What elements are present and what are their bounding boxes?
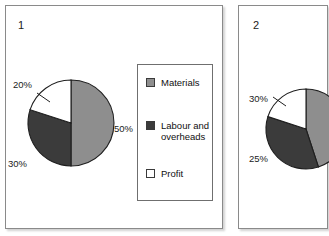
- legend-swatch-profit-icon: [146, 169, 155, 178]
- pie-1-label-profit: 20%: [13, 79, 32, 90]
- legend-label-materials: Materials: [161, 77, 200, 88]
- legend-item-materials: Materials: [146, 77, 200, 88]
- legend: Materials Labour and overheads Profit: [137, 64, 213, 201]
- legend-label-profit: Profit: [161, 168, 183, 179]
- panel-2: 2 30% 25%: [238, 5, 328, 229]
- legend-item-profit: Profit: [146, 168, 183, 179]
- panel-1: 1 20% 30% 50% Materials Labour and overh…: [5, 5, 223, 229]
- legend-swatch-materials-icon: [146, 78, 155, 87]
- pie-2-label-labour: 25%: [249, 153, 268, 164]
- pie-chart-2: [239, 6, 329, 230]
- legend-swatch-labour-and-overheads-icon: [146, 121, 155, 130]
- pie-2-label-profit: 30%: [249, 93, 268, 104]
- legend-item-labour-and-overheads: Labour and overheads: [146, 120, 212, 142]
- legend-label-labour-and-overheads: Labour and overheads: [161, 120, 212, 142]
- pie-1-label-materials: 50%: [114, 123, 133, 134]
- pie-1-label-labour: 30%: [8, 158, 27, 169]
- pie-1-slice-materials: [71, 80, 114, 166]
